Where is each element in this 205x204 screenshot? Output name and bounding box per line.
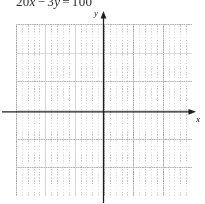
axes-layer xyxy=(0,0,205,204)
y-axis-label: y xyxy=(94,8,98,18)
graph-problem-figure: 20x−3y=100 y x xyxy=(0,0,205,204)
x-axis-label: x xyxy=(196,114,200,124)
x-axis-arrowhead-icon xyxy=(189,109,197,115)
y-axis-arrowhead-icon xyxy=(101,11,107,19)
